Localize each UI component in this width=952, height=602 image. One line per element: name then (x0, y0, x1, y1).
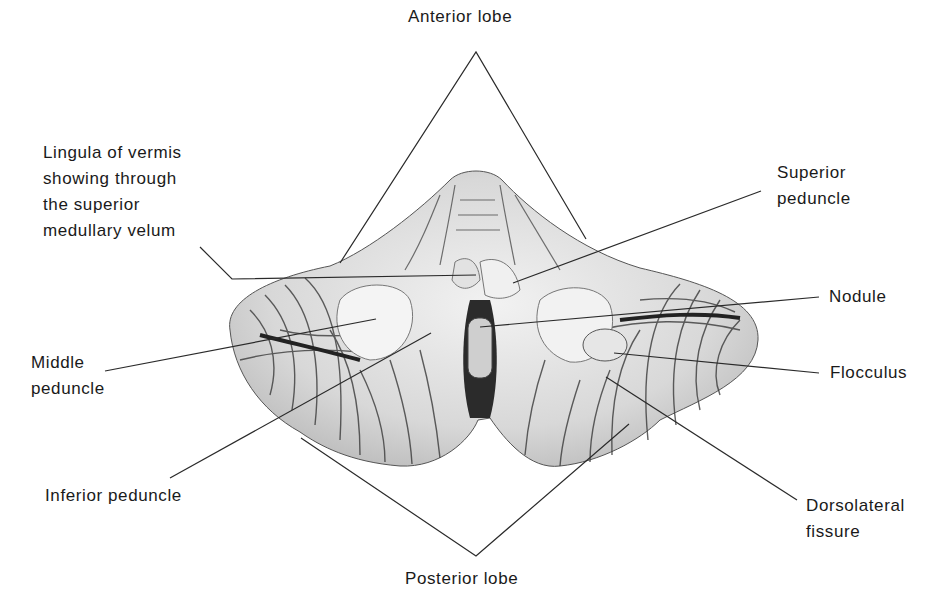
label-flocculus: Flocculus (830, 360, 907, 386)
label-superior-peduncle: Superior peduncle (777, 160, 851, 212)
label-nodule: Nodule (829, 284, 886, 310)
flocculus-shape (583, 329, 627, 361)
label-posterior-lobe: Posterior lobe (405, 566, 518, 592)
label-inferior-peduncle: Inferior peduncle (45, 483, 182, 509)
label-lingula-of-vermis: Lingula of vermis showing through the su… (43, 140, 182, 244)
label-middle-peduncle: Middle peduncle (31, 350, 105, 402)
label-anterior-lobe: Anterior lobe (408, 4, 512, 30)
label-dorsolateral-fissure: Dorsolateral fissure (806, 493, 905, 545)
